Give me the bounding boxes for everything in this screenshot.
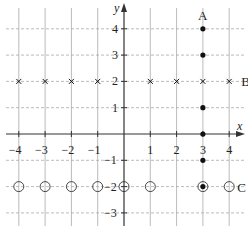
- x-tick-label: 1: [147, 143, 153, 157]
- y-axis-arrow-icon: [121, 3, 127, 12]
- x-tick-label: −2: [61, 143, 74, 157]
- point-A: [200, 53, 205, 58]
- x-tick-label: 3: [200, 143, 206, 157]
- coordinate-grid-diagram: xy−4−3−2−112344321−1−2−3ABC: [0, 0, 248, 230]
- x-tick-label: −3: [35, 143, 48, 157]
- y-tick-label: −1: [104, 153, 117, 167]
- point-A: [200, 131, 205, 136]
- plot-canvas: xy−4−3−2−112344321−1−2−3ABC: [0, 0, 248, 230]
- point-A: [200, 26, 205, 31]
- x-tick-label: 4: [226, 143, 232, 157]
- y-tick-label: −3: [104, 206, 117, 220]
- label-C: C: [237, 180, 246, 195]
- point-A: [200, 184, 205, 189]
- y-tick-label: −2: [104, 180, 117, 194]
- x-tick-label: 2: [174, 143, 180, 157]
- x-tick-label: −4: [9, 143, 22, 157]
- y-axis-label: y: [113, 1, 120, 15]
- y-tick-label: 2: [112, 74, 118, 88]
- point-A: [200, 158, 205, 163]
- label-A: A: [198, 8, 208, 23]
- y-tick-label: 1: [112, 101, 118, 115]
- point-A: [200, 105, 205, 110]
- label-B: B: [241, 74, 248, 89]
- x-tick-label: −1: [88, 143, 101, 157]
- y-tick-label: 3: [112, 48, 118, 62]
- x-axis-label: x: [236, 119, 243, 133]
- y-tick-label: 4: [112, 22, 118, 36]
